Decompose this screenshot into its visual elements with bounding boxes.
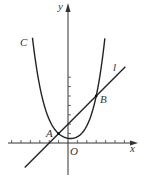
- curve-label: C: [20, 36, 28, 48]
- y-axis-label: y: [57, 0, 63, 12]
- point-a: [57, 132, 60, 135]
- point-b: [95, 95, 98, 98]
- coordinate-diagram: y x O C l A B: [0, 0, 144, 188]
- origin-label: O: [70, 145, 78, 157]
- point-b-label: B: [100, 93, 107, 105]
- y-axis-arrow-icon: [66, 3, 71, 12]
- point-a-label: A: [45, 127, 53, 139]
- line-label: l: [113, 61, 116, 73]
- x-axis-label: x: [129, 142, 135, 154]
